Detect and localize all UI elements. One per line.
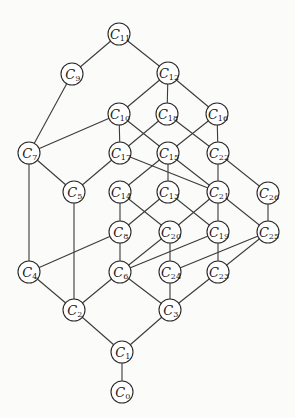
- node-c15: C15: [157, 142, 179, 164]
- node-c14: C14: [109, 181, 131, 203]
- node-c22: C22: [207, 142, 229, 164]
- node-c17: C17: [109, 142, 131, 164]
- node-c26: C26: [257, 182, 279, 204]
- node-c16: C16: [206, 103, 228, 125]
- node-c6: C6: [109, 261, 131, 283]
- node-c3: C3: [159, 299, 181, 321]
- edge-layer: [29, 34, 268, 392]
- node-c25: C25: [257, 221, 279, 243]
- node-c21: C21: [207, 181, 229, 203]
- node-c1: C1: [111, 341, 133, 363]
- node-c4: C4: [18, 261, 40, 283]
- node-c20: C20: [159, 221, 181, 243]
- node-c2: C2: [63, 299, 85, 321]
- node-c19: C19: [207, 221, 229, 243]
- node-c13: C13: [157, 181, 179, 203]
- node-c18: C18: [156, 103, 178, 125]
- node-c12: C12: [157, 62, 179, 84]
- node-c11: C11: [108, 23, 130, 45]
- node-c23: C23: [207, 261, 229, 283]
- node-c0: C0: [111, 381, 133, 403]
- edge-c9-c7: [29, 74, 72, 153]
- node-c5: C5: [63, 181, 85, 203]
- node-layer: C11C9C12C10C18C16C7C17C15C22C5C14C13C21C…: [18, 23, 279, 403]
- lattice-diagram: C11C9C12C10C18C16C7C17C15C22C5C14C13C21C…: [0, 0, 295, 418]
- node-c24: C24: [159, 261, 181, 283]
- node-c8: C8: [109, 221, 131, 243]
- edge-c10-c7: [29, 114, 119, 153]
- node-c9: C9: [61, 63, 83, 85]
- node-c7: C7: [18, 142, 40, 164]
- node-c10: C10: [108, 103, 130, 125]
